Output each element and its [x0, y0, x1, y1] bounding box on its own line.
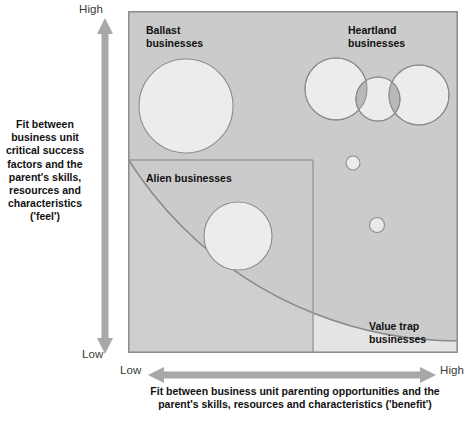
y-axis-label: Fit between business unit critical succe…	[2, 118, 88, 224]
y-axis-arrow-icon	[92, 18, 118, 354]
x-axis-low-cap: Low	[120, 364, 141, 376]
region-label-alien: Alien businesses	[146, 172, 232, 185]
bubble-valuetrap	[370, 218, 385, 233]
bubble-ballast	[139, 59, 233, 153]
x-axis-high-cap: High	[440, 364, 464, 376]
region-label-valuetrap: Value trap businesses	[369, 320, 426, 346]
x-axis-label: Fit between business unit parenting oppo…	[130, 385, 460, 411]
region-label-heartland: Heartland businesses	[348, 24, 405, 50]
figure-root: High Low Fit between business unit criti…	[0, 0, 474, 439]
bubble-heartland-small	[346, 156, 360, 170]
bubble-alien	[204, 202, 272, 270]
x-axis-arrow-icon	[148, 366, 436, 384]
y-axis-high-cap: High	[79, 3, 103, 15]
y-axis-group: High Low Fit between business unit criti…	[0, 0, 128, 370]
region-label-ballast: Ballast businesses	[146, 24, 203, 50]
